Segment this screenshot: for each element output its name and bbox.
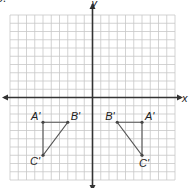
vertex-label: C'	[139, 157, 150, 169]
y-axis-label: y	[91, 0, 99, 9]
x-axis-arrow-left-icon	[2, 95, 8, 101]
x-axis-label: x	[181, 92, 188, 104]
y-axis-arrow-down-icon	[90, 185, 96, 188]
vertex-point	[41, 154, 44, 157]
vertex-label: A'	[30, 110, 41, 122]
vertex-point	[66, 121, 69, 124]
coordinate-plane: x y A'B'C'B'A'C'	[0, 0, 189, 188]
vertex-point	[140, 121, 143, 124]
vertex-label: C'	[30, 155, 41, 167]
right-triangle: B'A'C'	[105, 110, 155, 169]
vertex-point	[116, 121, 119, 124]
vertex-label: B'	[71, 110, 81, 122]
vertex-point	[41, 121, 44, 124]
vertex-label: B'	[105, 110, 115, 122]
vertex-label: A'	[144, 110, 155, 122]
